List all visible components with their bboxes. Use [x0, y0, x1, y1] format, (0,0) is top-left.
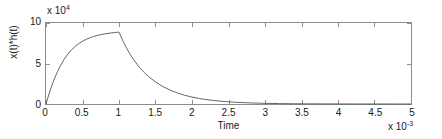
- y-axis-title: x(t)*h(t): [9, 7, 19, 77]
- y-tick-label: 5: [35, 59, 41, 69]
- x-axis-multiplier-base: x 10: [388, 121, 407, 132]
- x-tick-label: 2: [189, 108, 195, 118]
- x-tick-label: 1.5: [148, 108, 162, 118]
- y-axis-multiplier-label: x 104: [47, 6, 70, 16]
- y-axis-multiplier-base: x 10: [47, 5, 66, 16]
- x-tick-label: 5: [409, 108, 415, 118]
- y-axis-multiplier-exponent: 4: [66, 4, 70, 11]
- y-tick-label: 0: [35, 100, 41, 110]
- y-tick-label: 10: [30, 17, 41, 27]
- x-tick-label: 4: [336, 108, 342, 118]
- figure-panel: x 104 Time x(t)*h(t) x 10-3 00.511.522.5…: [0, 0, 442, 139]
- x-tick-label: 4.5: [368, 108, 382, 118]
- x-axis-multiplier-label: x 10-3: [388, 122, 413, 132]
- x-tick-label: 2.5: [222, 108, 236, 118]
- x-tick-label: 0: [42, 108, 48, 118]
- x-tick-label: 3: [262, 108, 268, 118]
- x-tick-label: 3.5: [295, 108, 309, 118]
- x-axis-title: Time: [45, 121, 412, 131]
- series-line: [46, 32, 411, 104]
- x-axis-multiplier-exponent: -3: [407, 120, 413, 127]
- x-tick-label: 1: [116, 108, 122, 118]
- plot-area: [45, 22, 412, 105]
- x-tick-label: 0.5: [75, 108, 89, 118]
- data-curve: [46, 23, 411, 104]
